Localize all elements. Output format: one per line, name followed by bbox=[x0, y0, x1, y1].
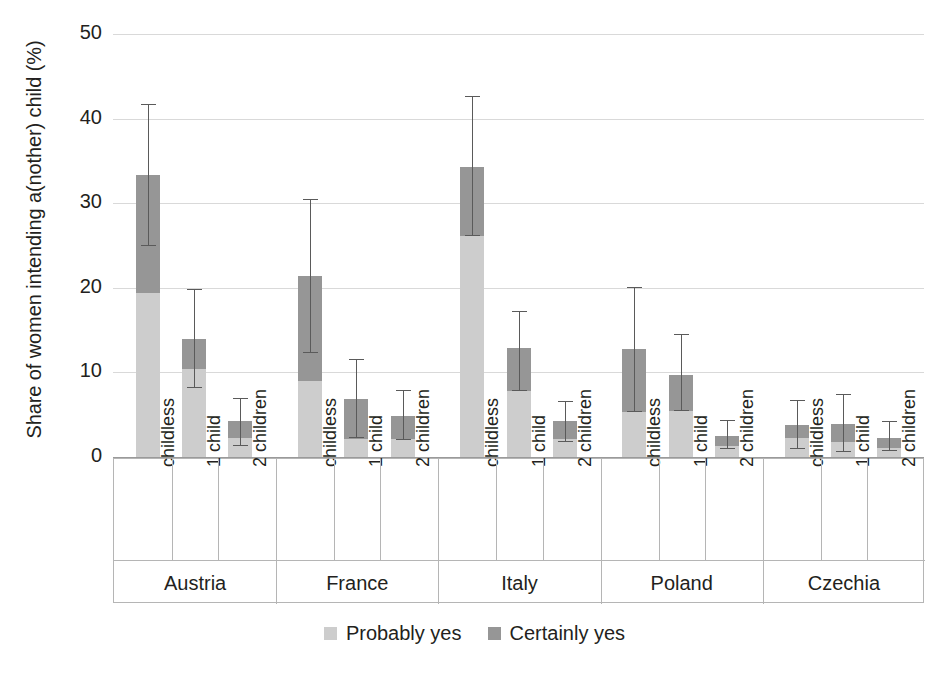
country-label-italy: Italy bbox=[438, 572, 600, 595]
category-cell-separator bbox=[867, 459, 868, 560]
category-label-poland-1-child: 1 child bbox=[691, 415, 712, 467]
legend-swatch-icon bbox=[488, 627, 501, 640]
bar-segment-probably-yes bbox=[391, 439, 415, 457]
error-bar-cap-upper bbox=[674, 334, 689, 335]
error-bar-stem bbox=[356, 359, 357, 439]
error-bar-austria-1-child bbox=[187, 289, 202, 387]
category-label-france-2-children: 2 children bbox=[413, 389, 434, 467]
error-bar-cap-lower bbox=[836, 451, 851, 452]
legend-item-certainly-yes[interactable]: Certainly yes bbox=[488, 622, 626, 645]
error-bar-cap-upper bbox=[187, 289, 202, 290]
y-tick-label-40: 40 bbox=[58, 106, 102, 129]
error-bar-cap-lower bbox=[349, 437, 364, 438]
legend-item-probably-yes[interactable]: Probably yes bbox=[324, 622, 462, 645]
gridline-40 bbox=[113, 119, 924, 120]
error-bar-cap-lower bbox=[233, 445, 248, 446]
category-label-poland-childless: childless bbox=[644, 398, 665, 467]
category-cell-separator bbox=[659, 459, 660, 560]
plot-area bbox=[113, 34, 924, 457]
error-bar-stem bbox=[148, 104, 149, 246]
error-bar-czechia-1-child bbox=[836, 394, 851, 452]
error-bar-cap-upper bbox=[558, 401, 573, 402]
bar-segment-probably-yes bbox=[669, 411, 693, 457]
bar-segment-probably-yes bbox=[507, 391, 531, 457]
error-bar-cap-upper bbox=[882, 421, 897, 422]
category-cell-separator bbox=[334, 459, 335, 560]
category-axis: Austriachildless1 child2 childrenFrancec… bbox=[113, 458, 924, 603]
error-bar-austria-childless bbox=[141, 104, 156, 246]
error-bar-stem bbox=[519, 311, 520, 391]
error-bar-stem bbox=[565, 401, 566, 442]
category-label-italy-childless: childless bbox=[482, 398, 503, 467]
gridline-20 bbox=[113, 288, 924, 289]
category-label-italy-2-children: 2 children bbox=[575, 389, 596, 467]
error-bar-cap-upper bbox=[790, 400, 805, 401]
y-tick-label-10: 10 bbox=[58, 359, 102, 382]
legend-swatch-icon bbox=[324, 627, 337, 640]
error-bar-czechia-2-children bbox=[882, 421, 897, 451]
error-bar-stem bbox=[843, 394, 844, 452]
error-bar-stem bbox=[194, 289, 195, 387]
error-bar-stem bbox=[472, 96, 473, 236]
category-cell-separator bbox=[172, 459, 173, 560]
category-label-austria-1-child: 1 child bbox=[204, 415, 225, 467]
error-bar-italy-2-children bbox=[558, 401, 573, 442]
error-bar-france-childless bbox=[303, 199, 318, 353]
error-bar-italy-childless bbox=[465, 96, 480, 236]
bar-segment-probably-yes bbox=[553, 439, 577, 457]
error-bar-stem bbox=[240, 398, 241, 446]
error-bar-france-1-child bbox=[349, 359, 364, 439]
error-bar-cap-lower bbox=[720, 448, 735, 449]
error-bar-cap-upper bbox=[627, 287, 642, 288]
error-bar-stem bbox=[310, 199, 311, 353]
error-bar-cap-upper bbox=[512, 311, 527, 312]
error-bar-cap-upper bbox=[233, 398, 248, 399]
bar-segment-probably-yes bbox=[298, 381, 322, 457]
error-bar-stem bbox=[403, 390, 404, 440]
bar-segment-probably-yes bbox=[136, 293, 160, 457]
error-bar-czechia-childless bbox=[790, 400, 805, 449]
error-bar-stem bbox=[681, 334, 682, 411]
error-bar-cap-lower bbox=[303, 352, 318, 353]
error-bar-cap-upper bbox=[141, 104, 156, 105]
category-cell-separator bbox=[543, 459, 544, 560]
legend-label: Certainly yes bbox=[510, 622, 626, 645]
error-bar-stem bbox=[797, 400, 798, 449]
category-cell-separator bbox=[218, 459, 219, 560]
error-bar-cap-upper bbox=[396, 390, 411, 391]
error-bar-cap-upper bbox=[303, 199, 318, 200]
category-label-france-childless: childless bbox=[320, 398, 341, 467]
legend-label: Probably yes bbox=[346, 622, 462, 645]
error-bar-cap-upper bbox=[720, 420, 735, 421]
y-tick-label-0: 0 bbox=[58, 444, 102, 467]
error-bar-cap-lower bbox=[187, 387, 202, 388]
category-label-czechia-1-child: 1 child bbox=[853, 415, 874, 467]
category-label-poland-2-children: 2 children bbox=[737, 389, 758, 467]
error-bar-cap-lower bbox=[882, 450, 897, 451]
category-label-france-1-child: 1 child bbox=[366, 415, 387, 467]
category-label-austria-2-children: 2 children bbox=[250, 389, 271, 467]
category-cell-separator bbox=[705, 459, 706, 560]
category-label-czechia-childless: childless bbox=[807, 398, 828, 467]
error-bar-cap-upper bbox=[349, 359, 364, 360]
error-bar-poland-2-children bbox=[720, 420, 735, 449]
country-label-czechia: Czechia bbox=[763, 572, 925, 595]
error-bar-cap-lower bbox=[465, 235, 480, 236]
error-bar-cap-lower bbox=[558, 441, 573, 442]
error-bar-italy-1-child bbox=[512, 311, 527, 391]
bar-segment-probably-yes bbox=[460, 236, 484, 457]
y-tick-label-30: 30 bbox=[58, 190, 102, 213]
gridline-30 bbox=[113, 203, 924, 204]
error-bar-cap-upper bbox=[465, 96, 480, 97]
chart-legend: Probably yesCertainly yes bbox=[0, 622, 949, 645]
category-label-austria-childless: childless bbox=[158, 398, 179, 467]
gridline-50 bbox=[113, 34, 924, 35]
error-bar-poland-1-child bbox=[674, 334, 689, 411]
error-bar-cap-lower bbox=[627, 411, 642, 412]
category-label-italy-1-child: 1 child bbox=[529, 415, 550, 467]
country-label-france: France bbox=[276, 572, 438, 595]
country-label-austria: Austria bbox=[114, 572, 276, 595]
error-bar-stem bbox=[634, 287, 635, 412]
country-label-poland: Poland bbox=[601, 572, 763, 595]
y-tick-label-20: 20 bbox=[58, 275, 102, 298]
